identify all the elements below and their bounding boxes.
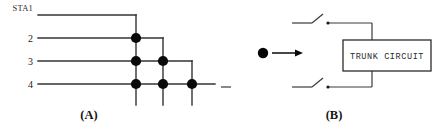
call-source-dot xyxy=(258,48,268,58)
crosspoint-dot[interactable] xyxy=(158,56,168,66)
crosspoint-dot[interactable] xyxy=(187,79,197,89)
station-label-2: 2 xyxy=(28,33,33,44)
station-label-1: STA1 xyxy=(13,3,33,13)
upper-switch-blade[interactable] xyxy=(312,14,323,23)
station-label-4: 4 xyxy=(28,79,33,90)
panel-a-group: STA1 2 3 4 (A) xyxy=(13,3,215,122)
direction-arrow-head xyxy=(295,49,303,56)
station-label-3: 3 xyxy=(28,56,33,67)
panel-b-group: TRUNK CIRCUIT (B) xyxy=(221,14,431,122)
panel-a-caption: (A) xyxy=(80,108,97,122)
switching-system-figure: STA1 2 3 4 (A) xyxy=(0,0,437,126)
trunk-circuit-label: TRUNK CIRCUIT xyxy=(350,52,424,62)
figure-canvas: STA1 2 3 4 (A) xyxy=(0,0,437,126)
crosspoint-dot[interactable] xyxy=(131,56,141,66)
panel-b-caption: (B) xyxy=(326,108,343,122)
lower-switch-blade[interactable] xyxy=(312,78,323,87)
crosspoint-dot[interactable] xyxy=(131,33,141,43)
crosspoint-dot[interactable] xyxy=(158,79,168,89)
crosspoint-dot[interactable] xyxy=(131,79,141,89)
